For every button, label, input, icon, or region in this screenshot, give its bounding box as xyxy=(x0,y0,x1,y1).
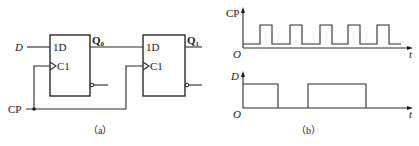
cp-input-label: CP xyxy=(8,103,21,115)
d-origin-label: O xyxy=(233,108,241,120)
d-input-label: D xyxy=(14,41,23,53)
d-y-arrow-icon xyxy=(241,71,245,77)
ff0-d-pin: 1D xyxy=(53,41,67,53)
cp-x-label: t xyxy=(409,48,413,60)
ff1-output-label: Q1 xyxy=(187,34,200,48)
ff0-output-label: Q0 xyxy=(92,34,105,48)
panel-a-caption: （a） xyxy=(88,125,112,136)
ff0-clk-pin: C1 xyxy=(57,60,70,72)
panel-b-timing: CP O t D O t （b） xyxy=(226,7,413,136)
ff1-inverted-output-bubble-icon xyxy=(185,83,189,87)
panel-a-circuit: D 1D C1 Q0 1D C1 Q1 CP （a） xyxy=(8,34,202,136)
cp-origin-label: O xyxy=(233,48,241,60)
ff1-clk-pin: C1 xyxy=(150,60,163,72)
cp-y-label: CP xyxy=(226,7,239,19)
circuit-and-timing-diagram: D 1D C1 Q0 1D C1 Q1 CP （a） CP xyxy=(0,0,419,146)
cp-to-ff1-wire xyxy=(126,66,143,109)
d-waveform-pulse-2 xyxy=(308,84,366,108)
panel-b-caption: （b） xyxy=(296,125,321,136)
d-x-label: t xyxy=(409,108,413,120)
ff0-inverted-output-bubble-icon xyxy=(90,83,94,87)
cp-y-arrow-icon xyxy=(241,7,245,13)
d-y-label: D xyxy=(230,70,239,82)
ff1-d-pin: 1D xyxy=(146,41,160,53)
d-waveform-pulse-1 xyxy=(243,84,278,108)
cp-to-ff0-wire xyxy=(34,66,50,109)
cp-waveform xyxy=(243,25,401,44)
